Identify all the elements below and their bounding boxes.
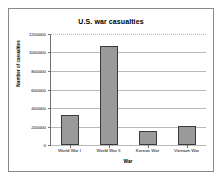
y-axis-tick-label: 1000000: [29, 50, 46, 55]
plot-area: 020000040000060000080000010000001200000: [50, 34, 206, 146]
y-axis-tick-label: 800000: [31, 68, 46, 73]
bar-slot: [129, 34, 168, 145]
bar-series: [51, 34, 206, 145]
x-axis-tick-label: World War II: [89, 148, 128, 153]
y-axis-tick-label: 600000: [31, 87, 46, 92]
chart-title: U.S. war casualties: [9, 18, 213, 26]
y-axis-tick-label: 1200000: [29, 32, 46, 37]
x-axis-tick-labels: World War IWorld War IIKorean WarVietnam…: [50, 148, 206, 153]
bar-slot: [167, 34, 206, 145]
chart-frame: U.S. war casualties Number of casualties…: [8, 8, 214, 172]
bar[interactable]: [178, 126, 196, 145]
bar[interactable]: [139, 131, 157, 145]
y-axis-tick-label: 400000: [31, 105, 46, 110]
y-axis-tick: [48, 145, 51, 146]
x-axis-tick-label: Korean War: [128, 148, 167, 153]
y-axis-tick-label: 0: [44, 143, 46, 148]
x-axis-tick-label: Vietnam War: [167, 148, 206, 153]
gridline: [51, 145, 206, 146]
bar-slot: [51, 34, 90, 145]
bar-slot: [90, 34, 129, 145]
x-axis-tick-label: World War I: [50, 148, 89, 153]
y-axis-title: Number of casualties: [16, 34, 21, 94]
y-axis-tick-label: 200000: [31, 124, 46, 129]
bar[interactable]: [100, 46, 118, 145]
x-axis-title: War: [50, 159, 206, 164]
bar[interactable]: [61, 115, 79, 145]
